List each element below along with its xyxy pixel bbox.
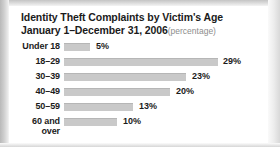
chart-canvas: Identity Theft Complaints by Victim's Ag… [10,6,268,145]
row-label-40-49: 40–49 [10,86,60,96]
chart-row: 18–29 29% [10,55,268,70]
bar-value-18-29: 29% [223,56,241,66]
bar-50-59 [64,103,133,111]
row-label-60-line1: 60 and [32,116,60,126]
chart-subtitle-suffix: (percentage) [168,26,216,36]
bar-30-39 [64,73,186,81]
chart-rows: Under 18 5% 18–29 29% 30–39 23% 40–49 20… [10,40,268,130]
row-label-60-line2: over [10,126,60,136]
chart-title: Identity Theft Complaints by Victim's Ag… [21,11,265,24]
row-label-under-18: Under 18 [10,41,60,51]
identity-theft-age-chart-figure: Identity Theft Complaints by Victim's Ag… [0,0,280,147]
row-label-30-39: 30–39 [10,71,60,81]
bar-value-under-18: 5% [96,41,109,51]
bar-60-and-over [64,118,117,126]
row-label-50-59: 50–59 [10,101,60,111]
chart-row: 60 andover 10% [10,115,268,130]
chart-title-block: Identity Theft Complaints by Victim's Ag… [21,11,265,37]
bar-under-18 [64,43,90,51]
bar-40-49 [64,88,170,96]
row-label-60-and-over: 60 andover [10,116,60,136]
scan-edge-bottom [0,143,280,147]
chart-row: 30–39 23% [10,70,268,85]
row-label-18-29: 18–29 [10,56,60,66]
bar-18-29 [64,58,218,66]
bar-value-60-and-over: 10% [123,116,141,126]
bar-value-30-39: 23% [192,71,210,81]
chart-row: Under 18 5% [10,40,268,55]
chart-row: 40–49 20% [10,85,268,100]
chart-row: 50–59 13% [10,100,268,115]
scan-edge-right [268,0,280,147]
bar-value-40-49: 20% [176,86,194,96]
scan-edge-top [0,0,280,6]
chart-subtitle-line: January 1–December 31, 2006(percentage) [21,24,265,38]
chart-subtitle: January 1–December 31, 2006 [21,24,168,36]
bar-value-50-59: 13% [139,101,157,111]
scan-edge-left [0,0,9,147]
